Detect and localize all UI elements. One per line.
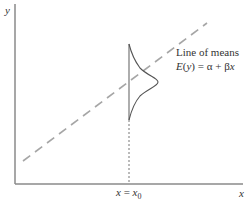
y-axis-label: y	[4, 4, 10, 16]
normal-distribution-curve	[129, 44, 158, 120]
x0-label: x = x0	[115, 186, 142, 201]
regression-diagram: y x x = x0 Line of means E(y) = α + βx	[0, 0, 250, 204]
line-of-means	[23, 23, 207, 161]
line-of-means-equation: E(y) = α + βx	[175, 60, 235, 73]
x-axis-label: x	[238, 187, 244, 199]
line-of-means-label: Line of means	[176, 46, 239, 58]
